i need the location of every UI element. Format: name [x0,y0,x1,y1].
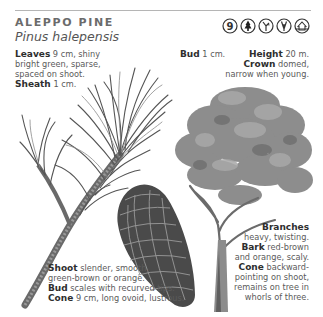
height-text: 20 m. [285,49,309,59]
shoot-label: Shoot [48,263,78,273]
leaves-text-3: spaced on shoot. [15,69,85,79]
cone-bottom-text: 9 cm, long ovoid, lustrous. [76,293,185,303]
cone-right-label: Cone [239,262,264,272]
note-height-crown: Height 20 m. Crown domed, narrow when yo… [225,49,309,79]
cone-right-text-4: whorls of three. [245,292,309,302]
sheath-label: Sheath [15,79,51,89]
bark-label: Bark [241,242,264,252]
bark-text-2: and orange, scaly. [235,252,309,262]
branches-text: heavy, twisting. [244,232,309,242]
note-leaves: Leaves 9 cm, shiny bright green, sparse,… [15,49,101,89]
leaves-label: Leaves [15,49,50,59]
bud-top-text: 1 cm. [202,49,225,59]
shoot-text-2: green-brown or orange. [48,273,145,283]
branches-label: Branches [262,222,309,232]
bud-bottom-label: Bud [48,283,68,293]
note-bud-top: Bud 1 cm. [180,49,225,59]
crown-text-1: domed, [278,59,309,69]
note-shoot-bud-cone: Shoot slender, smooth, green-brown or or… [48,263,184,303]
cone-right-text-3: remains on tree in [234,282,309,292]
sheath-text: 1 cm. [53,79,76,89]
height-label: Height [249,49,283,59]
bud-bottom-text: scales with recurved tips. [70,283,174,293]
note-branches-bark-cone: Branches heavy, twisting. Bark red-brown… [234,222,309,302]
cone-right-text-1: backward- [266,262,309,272]
bark-text-1: red-brown [267,242,309,252]
cone-bottom-label: Cone [48,293,73,303]
shoot-text-1: slender, smooth, [80,263,149,273]
crown-label: Crown [243,59,275,69]
leaves-text-1: 9 cm, shiny [53,49,100,59]
leaves-text-2: bright green, sparse, [15,59,101,69]
cone-right-text-2: pointing on shoot, [235,272,309,282]
bud-top-label: Bud [180,49,200,59]
crown-text-2: narrow when young. [225,69,309,79]
